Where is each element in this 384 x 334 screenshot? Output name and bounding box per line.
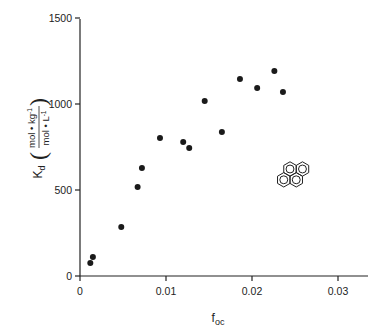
data-points [87,68,286,266]
x-ticks: 00.010.020.03 [77,276,348,297]
aromatic-circle [280,176,288,184]
y-axis-numerator: mol • kg-1 [26,108,37,148]
data-point [237,76,243,82]
data-point [219,129,225,135]
y-tick-label: 1000 [49,98,73,110]
y-axis-title-sub: d [37,165,47,170]
y-axis-title: Kd ( mol • kg-1 mol • L-1 ) [25,98,51,179]
y-tick-label: 1500 [49,12,73,24]
y-axis-denominator-text: mol • L [40,116,51,145]
data-point [180,139,186,145]
data-point [271,68,277,74]
y-axis-paren-left: ( [25,152,51,160]
pyrene-molecule-icon [278,162,309,187]
y-axis-title-k: Kd [31,165,47,178]
x-tick-label: 0.03 [328,285,349,297]
axes [80,19,368,276]
x-tick-label: 0 [77,285,83,297]
aromatic-circle [286,165,294,173]
data-point [202,98,208,104]
scatter-chart: 050010001500 00.010.020.03 foc Kd ( mol … [0,0,384,334]
data-point [87,260,93,266]
x-axis-title-sub: oc [215,317,225,327]
data-point [280,89,286,95]
y-axis-denominator-sup: -1 [40,110,47,116]
x-tick-label: 0.02 [242,285,263,297]
y-axis-numerator-text: mol • kg [26,114,37,148]
y-axis-paren-right: ) [25,98,51,106]
aromatic-circle [299,165,307,173]
y-ticks: 050010001500 [49,12,80,282]
x-axis-title: foc [212,311,225,327]
data-point [254,85,260,91]
data-point [186,145,192,151]
y-axis-title-main: K [31,171,45,179]
y-tick-label: 500 [54,184,72,196]
y-axis-numerator-sup: -1 [26,108,33,114]
y-tick-label: 0 [66,270,72,282]
x-tick-label: 0.01 [156,285,177,297]
data-point [139,165,145,171]
data-point [118,224,124,230]
data-point [135,184,141,190]
y-axis-denominator: mol • L-1 [40,110,51,145]
data-point [90,254,96,260]
aromatic-circle [292,176,300,184]
data-point [157,135,163,141]
